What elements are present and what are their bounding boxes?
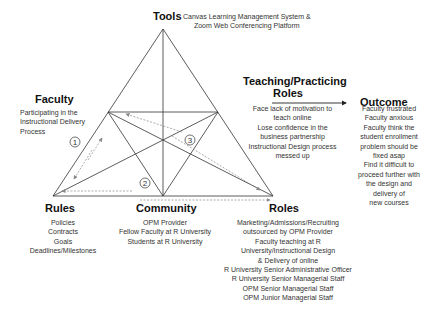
- roles-title: Roles: [269, 202, 299, 214]
- outcome-description: Faculty frustrated Faculty anxious Facul…: [348, 104, 430, 207]
- marker-2: 2: [143, 179, 148, 188]
- faculty-title: Faculty: [35, 93, 74, 105]
- community-description: OPM Provider Fellow Faculty at R Univers…: [110, 218, 220, 246]
- roles-description: Marketing/Admissions/Recruiting outsourc…: [220, 218, 356, 303]
- rules-title: Rules: [45, 202, 75, 214]
- faculty-description: Participating in the Instructional Deliv…: [20, 108, 85, 136]
- markers: 1 2 3: [70, 135, 195, 188]
- community-title: Community: [136, 202, 197, 214]
- rules-description: Policies Contracts Goals Deadlines/Miles…: [18, 218, 108, 256]
- tools-title: Tools: [153, 10, 182, 22]
- marker-3: 3: [188, 136, 193, 145]
- tools-description: Canvas Learning Management System & Zoom…: [183, 12, 311, 31]
- teaching-roles-description: Face lack of motivation to teach online …: [240, 104, 345, 160]
- marker-1: 1: [73, 138, 78, 147]
- teaching-roles-title: Teaching/Practicing Roles: [243, 75, 333, 99]
- tension-arrows: [62, 114, 270, 200]
